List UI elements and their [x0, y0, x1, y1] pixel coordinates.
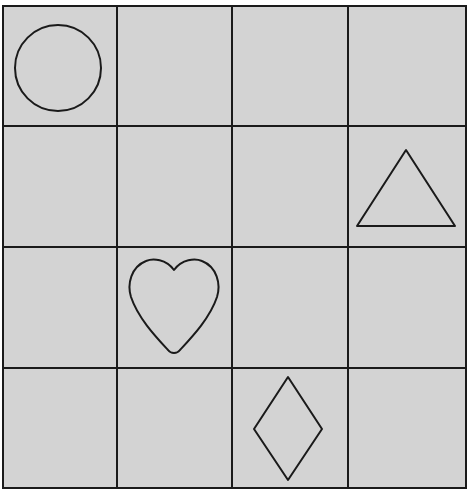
- cell-r1-c4[interactable]: [349, 7, 465, 125]
- cell-r1-c3[interactable]: [233, 7, 347, 125]
- cell-r2-c1[interactable]: [4, 127, 116, 246]
- cell-r2-c2[interactable]: [118, 127, 231, 246]
- cell-r3-c1[interactable]: [4, 248, 116, 367]
- cell-r3-c4[interactable]: [349, 248, 465, 367]
- cell-r4-c4[interactable]: [349, 369, 465, 487]
- cell-r2-c4[interactable]: [349, 127, 465, 246]
- cell-r2-c3[interactable]: [233, 127, 347, 246]
- cell-r4-c1[interactable]: [4, 369, 116, 487]
- cell-r3-c3[interactable]: [233, 248, 347, 367]
- cell-r4-c2[interactable]: [118, 369, 231, 487]
- cell-r4-c3[interactable]: [233, 369, 347, 487]
- shape-grid: [0, 0, 468, 492]
- cell-r1-c2[interactable]: [118, 7, 231, 125]
